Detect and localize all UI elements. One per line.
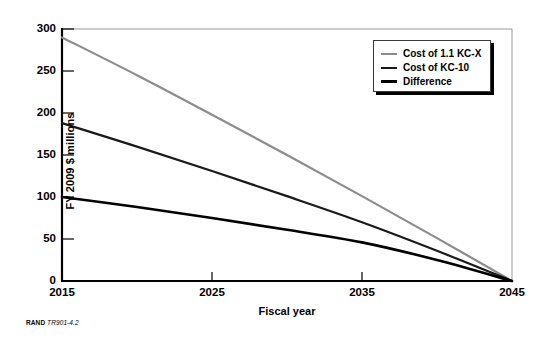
source-figure-id: TR901-4.2 — [47, 319, 79, 326]
series-line — [62, 197, 512, 281]
y-tick-label: 250 — [10, 65, 56, 77]
legend-item-label: Difference — [403, 77, 452, 87]
x-tick-marks — [212, 272, 362, 281]
legend-line-icon — [381, 80, 397, 83]
y-tick-label: 200 — [10, 107, 56, 119]
legend-item: Cost of 1.1 KC-X — [381, 47, 490, 60]
chart-legend: Cost of 1.1 KC-X Cost of KC-10 Differenc… — [373, 40, 491, 92]
x-tick-label: 2025 — [182, 286, 242, 298]
x-tick-label: 2015 — [32, 286, 92, 298]
legend-item-label: Cost of KC-10 — [403, 63, 469, 73]
x-tick-label: 2045 — [482, 286, 536, 298]
series-line — [62, 123, 512, 281]
legend-item-label: Cost of 1.1 KC-X — [403, 49, 481, 59]
legend-item: Cost of KC-10 — [381, 61, 490, 74]
y-tick-label: 300 — [10, 23, 56, 35]
source-note: RAND TR901-4.2 — [26, 319, 79, 326]
y-axis-title: FY 2009 $ millions — [64, 51, 76, 271]
x-axis-title: Fiscal year — [62, 305, 512, 317]
y-tick-label: 0 — [10, 275, 56, 287]
legend-item: Difference — [381, 75, 490, 88]
y-tick-label: 100 — [10, 191, 56, 203]
legend-line-icon — [381, 67, 397, 69]
y-tick-label: 50 — [10, 233, 56, 245]
legend-line-icon — [381, 53, 397, 55]
figure-container: 300 250 200 150 100 50 0 2015 2025 2035 … — [0, 0, 536, 340]
source-publisher: RAND — [26, 319, 45, 326]
x-tick-label: 2035 — [332, 286, 392, 298]
y-tick-label: 150 — [10, 149, 56, 161]
